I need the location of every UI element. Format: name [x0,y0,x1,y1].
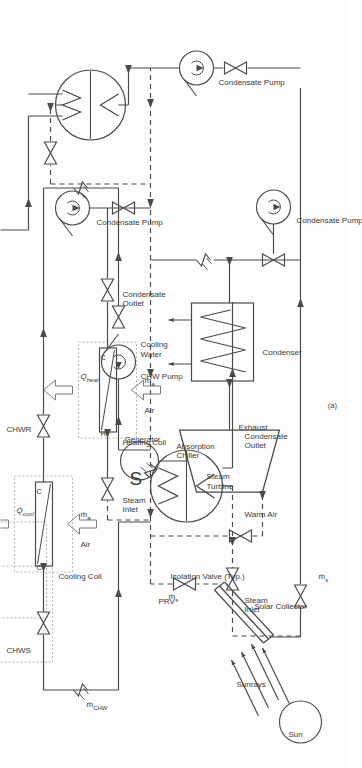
label-sunrays: Sunrays [236,680,265,689]
label-solar-collector-text: Solar Collector [254,602,306,611]
figure-caption: (a) [328,401,337,410]
figure-caption-text: (a) [328,401,337,410]
label-m-steam-collector-2: ṁs [168,592,178,603]
label-sun: Sun [288,730,302,739]
